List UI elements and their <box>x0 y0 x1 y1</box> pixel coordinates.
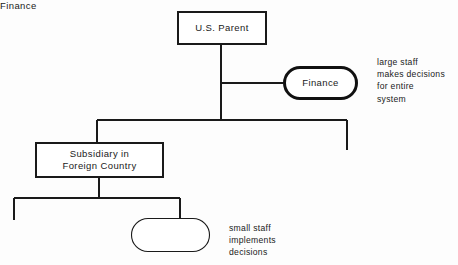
annotation-small-staff: small staff implements decisions <box>229 222 315 259</box>
annotation-large-staff: large staff makes decisions for entire s… <box>377 56 457 105</box>
node-shape-finance-bottom <box>132 219 210 252</box>
node-shape-finance-top <box>285 68 357 99</box>
node-shape-subsidiary <box>36 143 163 177</box>
node-shape-us-parent <box>178 12 266 44</box>
org-chart-diagram: U.S. Parent Finance Subsidiary in Foreig… <box>0 0 458 265</box>
